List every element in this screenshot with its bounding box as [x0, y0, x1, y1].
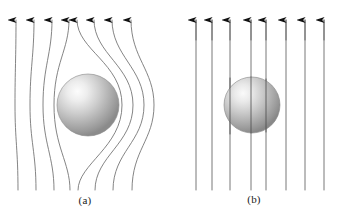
panel-a-label: (a)	[0, 194, 170, 206]
field-line	[131, 20, 154, 190]
panel-b: (b)	[169, 0, 339, 224]
field-line	[30, 20, 36, 190]
sphere-a	[57, 74, 119, 136]
sphere-b	[224, 77, 280, 133]
panel-b-field-line-arrows	[196, 20, 324, 40]
panel-a-drawing	[0, 0, 170, 224]
panel-b-drawing	[169, 0, 339, 224]
field-line	[43, 20, 54, 190]
figure-container: (a)	[0, 0, 339, 224]
panel-b-label: (b)	[169, 193, 339, 205]
panel-a: (a)	[0, 0, 170, 224]
field-line	[15, 20, 18, 190]
